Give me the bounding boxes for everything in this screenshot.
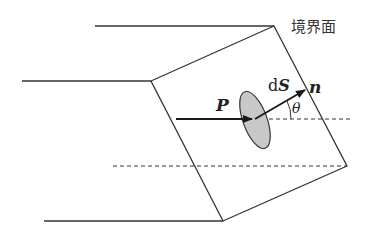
angle-label: θ: [292, 101, 300, 115]
polarization-label: P: [216, 97, 229, 114]
area-element-S: S: [278, 76, 290, 95]
boundary-label: 境界面: [291, 20, 336, 35]
angle-arc: [287, 101, 291, 119]
area-element-label: dS: [268, 78, 290, 94]
normal-label: n: [309, 79, 321, 96]
area-element-d: d: [268, 76, 278, 95]
